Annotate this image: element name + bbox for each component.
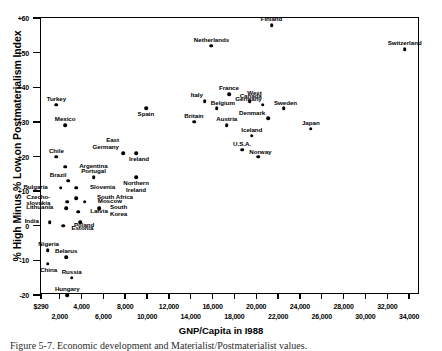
data-point-label: Bulgaria [23,184,47,191]
y-tick-mark [33,17,41,18]
data-point-label: Brazil [50,172,67,179]
y-tick-label: +40 [0,84,29,91]
x-tick-mark [365,293,366,299]
data-point[interactable] [266,117,270,121]
data-point[interactable] [203,99,207,103]
x-tick-label: 14,000 [181,313,201,320]
data-point[interactable] [250,134,254,138]
data-point[interactable] [59,186,63,190]
data-point-label: Ireland [129,156,149,163]
x-tick-label: 8,000 [117,303,134,310]
x-tick-mark [299,293,300,299]
x-tick-mark [168,293,169,299]
x-tick-mark [190,293,191,299]
data-point[interactable] [83,200,87,204]
data-point[interactable] [121,151,125,155]
data-point[interactable] [55,103,59,107]
data-point[interactable] [215,106,219,110]
data-point[interactable] [309,127,313,131]
x-tick-mark [124,293,125,299]
data-point-label: Italy [191,92,203,99]
data-point[interactable] [66,200,70,204]
data-point[interactable] [210,44,214,48]
figure-caption: Figure 5-7. Economic development and Mat… [10,340,440,351]
x-tick-mark [343,293,344,299]
y-tick-mark [33,121,41,122]
data-point[interactable] [225,124,229,128]
data-point[interactable] [64,207,68,211]
x-tick-label: $290 [34,303,49,310]
x-axis-label: GNP/Capita in I988 [0,325,442,336]
data-point[interactable] [192,120,196,124]
data-point-label: West Germany [235,90,261,103]
data-point[interactable] [63,165,67,169]
y-tick-label: +50 [0,49,29,56]
data-point-label: Lithuania [26,204,53,211]
data-point[interactable] [66,293,70,297]
data-point[interactable] [261,103,265,107]
data-point[interactable] [46,248,50,252]
data-point[interactable] [67,179,71,183]
data-point[interactable] [74,196,78,200]
x-tick-label: 24,000 [290,303,310,310]
data-point-label: Portugal [81,168,106,175]
data-point[interactable] [64,255,68,259]
data-point-label: Slovenia [90,184,115,191]
x-tick-mark [40,293,41,299]
x-tick-label: 30,000 [355,313,375,320]
x-tick-label: 28,000 [333,303,353,310]
x-tick-mark [59,293,60,299]
data-point-label: Northern Ireland [123,180,149,193]
data-point-label: Spain [138,111,155,118]
x-tick-mark [81,293,82,299]
data-point[interactable] [282,106,286,110]
x-tick-mark [212,293,213,299]
y-tick-label: -10 [0,257,29,264]
data-point-label: Norway [249,149,271,156]
x-tick-mark [234,293,235,299]
data-point[interactable] [403,47,407,51]
y-tick-label: -20 [0,292,29,299]
data-point[interactable] [70,276,74,280]
data-point[interactable] [270,23,274,27]
data-point[interactable] [61,224,65,228]
x-tick-label: 6,000 [95,313,112,320]
data-point-label: China [40,267,57,274]
data-point-label: Russia [62,269,82,276]
x-tick-label: 20,000 [246,303,266,310]
y-tick-mark [33,260,41,261]
data-point-label: India [25,218,39,225]
y-tick-label: +30 [0,118,29,125]
x-tick-mark [321,293,322,299]
x-tick-label: 2,000 [51,313,68,320]
data-point-label: South Korea [110,204,127,217]
data-point-label: U.S.A. [233,141,251,148]
data-point[interactable] [63,124,67,128]
data-point[interactable] [48,220,52,224]
data-point-label: Hungary [55,286,80,293]
x-tick-label: 34,000 [399,313,419,320]
x-tick-label: 16,000 [202,303,222,310]
data-point-label: Switzerland [388,40,422,47]
data-point[interactable] [227,92,231,96]
y-tick-mark [33,87,41,88]
data-point-label: East Germany [93,137,119,150]
y-tick-label: +60 [0,15,29,22]
x-tick-mark [103,293,104,299]
y-tick-mark [33,156,41,157]
scatter-plot-area: +60+50+40+30+20+100-10-20 $2904,0008,000… [40,17,419,294]
x-tick-label: 32,000 [377,303,397,310]
data-point-label: Chile [49,148,64,155]
data-point-label: Britain [184,113,203,120]
data-point-label: Austria [216,116,237,123]
data-point[interactable] [55,155,59,159]
data-point[interactable] [74,186,78,190]
data-point[interactable] [97,207,101,211]
data-point[interactable] [92,175,96,179]
data-point[interactable] [76,210,80,214]
data-point[interactable] [257,155,261,159]
data-point[interactable] [240,148,244,152]
x-tick-mark [387,293,388,299]
x-tick-label: 22,000 [268,313,288,320]
